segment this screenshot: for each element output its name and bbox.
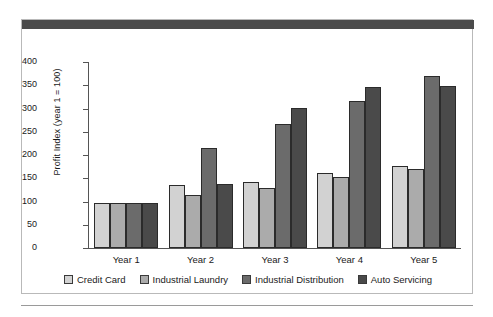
x-axis-label: Year 3 bbox=[235, 254, 315, 265]
figure-root: Profit Index (year 1 = 100) 400350300250… bbox=[0, 0, 493, 317]
bar bbox=[275, 124, 291, 248]
legend-item[interactable]: Credit Card bbox=[64, 274, 126, 285]
bar bbox=[291, 108, 307, 248]
y-axis-tick-label: 300 bbox=[0, 104, 37, 113]
legend-item[interactable]: Industrial Laundry bbox=[140, 274, 229, 285]
bar bbox=[408, 169, 424, 249]
bar bbox=[392, 166, 408, 248]
bar bbox=[110, 203, 126, 248]
legend-item[interactable]: Industrial Distribution bbox=[242, 274, 344, 285]
bar-group bbox=[317, 62, 381, 248]
legend-label: Credit Card bbox=[77, 274, 126, 285]
bar bbox=[201, 148, 217, 248]
legend-swatch-icon bbox=[358, 275, 367, 284]
bar-groups bbox=[89, 62, 461, 248]
y-axis-tick-label: 200 bbox=[0, 150, 37, 159]
x-axis-line bbox=[88, 248, 461, 249]
legend-swatch-icon bbox=[64, 275, 73, 284]
legend-item[interactable]: Auto Servicing bbox=[358, 274, 432, 285]
bar bbox=[317, 173, 333, 248]
legend-label: Industrial Distribution bbox=[255, 274, 344, 285]
x-axis-label: Year 5 bbox=[384, 254, 464, 265]
bar-group bbox=[243, 62, 307, 248]
bar bbox=[365, 87, 381, 248]
x-axis-label: Year 2 bbox=[161, 254, 241, 265]
y-axis-title: Profit Index (year 1 = 100) bbox=[52, 32, 62, 212]
x-axis-label: Year 1 bbox=[86, 254, 166, 265]
bar bbox=[259, 188, 275, 248]
y-axis-tick-label: 150 bbox=[0, 173, 37, 182]
bar bbox=[440, 86, 456, 248]
y-axis-tick-label: 250 bbox=[0, 127, 37, 136]
chart-title-bar bbox=[22, 20, 474, 29]
bar bbox=[349, 101, 365, 248]
bar bbox=[169, 185, 185, 248]
y-axis-tick-label: 50 bbox=[0, 220, 37, 229]
legend-label: Industrial Laundry bbox=[153, 274, 229, 285]
legend-label: Auto Servicing bbox=[371, 274, 432, 285]
bar-group bbox=[392, 62, 456, 248]
y-axis-tick-label: 0 bbox=[0, 243, 37, 252]
x-axis-label: Year 4 bbox=[309, 254, 389, 265]
bar bbox=[217, 184, 233, 248]
plot-area: Profit Index (year 1 = 100) 400350300250… bbox=[22, 29, 474, 295]
bar bbox=[424, 76, 440, 248]
chart-legend: Credit CardIndustrial LaundryIndustrial … bbox=[22, 274, 474, 285]
bar bbox=[94, 203, 110, 248]
bar bbox=[333, 177, 349, 248]
bar bbox=[185, 195, 201, 248]
legend-swatch-icon bbox=[140, 275, 149, 284]
bar-group bbox=[169, 62, 233, 248]
footer-divider bbox=[21, 305, 473, 306]
bar-group bbox=[94, 62, 158, 248]
legend-swatch-icon bbox=[242, 275, 251, 284]
bar bbox=[142, 203, 158, 248]
chart-frame: Profit Index (year 1 = 100) 400350300250… bbox=[21, 19, 473, 294]
y-axis-tick-label: 100 bbox=[0, 197, 37, 206]
bar bbox=[243, 182, 259, 248]
bar bbox=[126, 203, 142, 248]
y-axis-tick-label: 350 bbox=[0, 80, 37, 89]
y-axis-tick-label: 400 bbox=[0, 57, 37, 66]
